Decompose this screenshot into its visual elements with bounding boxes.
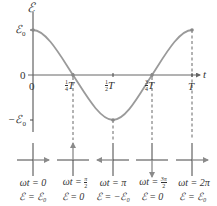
phasor-3-phase: ωt = π — [91, 178, 135, 188]
point-t0 — [31, 28, 35, 32]
phasor-4-phase: ωt = 3π2 — [131, 176, 175, 189]
y-axis-label: ℰ — [27, 1, 35, 14]
y-tick-label-zero: 0 — [20, 70, 26, 81]
t-axis-label: t — [203, 69, 206, 80]
x-tick-label-T: T — [188, 81, 194, 92]
point-half — [111, 118, 115, 122]
phasor-3-emf: ℰ = −ℰ₀ — [91, 192, 135, 202]
phasor-4-emf: ℰ = 0 — [130, 192, 174, 202]
phasor-2-emf: ℰ = 0 — [51, 192, 95, 202]
phasor-1-emf: ℰ = ℰ₀ — [11, 192, 55, 202]
emf-cosine-diagram — [0, 0, 217, 206]
phasor-5-phase: ωt = 2π — [172, 178, 216, 188]
phasor-2 — [57, 143, 89, 176]
phasor-1 — [17, 143, 49, 176]
point-T — [190, 28, 194, 32]
phasor-3 — [97, 143, 129, 176]
y-tick-label-e0: ℰ0 — [15, 24, 26, 38]
phasor-1-phase: ωt = 0 — [11, 178, 55, 188]
x-tick-label-half: 1 2 T — [105, 79, 114, 92]
x-tick-label-quarter: 1 4 T — [65, 79, 74, 92]
x-tick-label-threequarter: 3 4 T — [145, 79, 154, 92]
y-tick-label-neg-e0: −ℰ0 — [8, 114, 26, 128]
x-tick-label-zero: 0 — [29, 81, 35, 92]
point-threequarter — [150, 73, 154, 77]
point-quarter — [71, 73, 75, 77]
phasor-4 — [136, 143, 168, 177]
phasor-5-emf: ℰ = ℰ₀ — [171, 192, 215, 202]
phasor-5 — [176, 143, 208, 176]
